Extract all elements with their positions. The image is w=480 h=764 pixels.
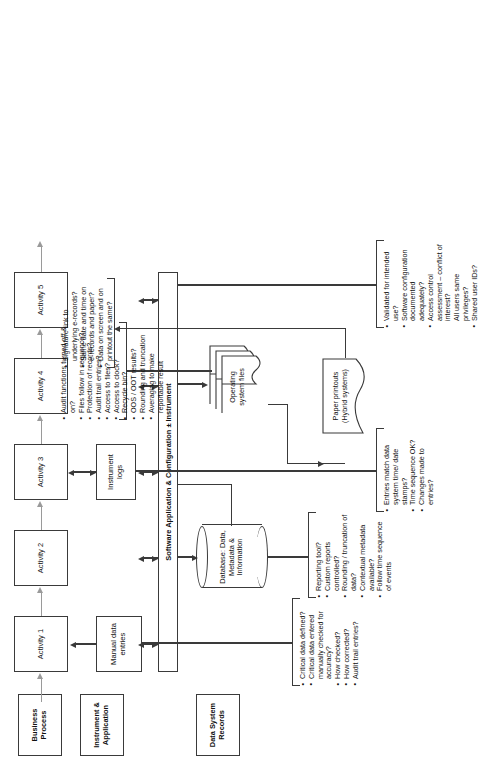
- lane-label-data-system-records: Data System Records: [196, 694, 240, 756]
- activity-label: Activity 1: [37, 629, 46, 659]
- line-paper-callout-h: [345, 328, 346, 358]
- activity-box-3: Activity 3: [14, 444, 68, 500]
- line-manual-callout-stem: [142, 642, 292, 643]
- line-database-return-v: [178, 484, 232, 485]
- flow-arrow-a3-a4: [37, 415, 43, 421]
- manual-data-entries-box: Manual data entries: [96, 616, 142, 672]
- flow-arrow-a4-a5: [37, 329, 43, 335]
- line-software-callout-stem: [178, 284, 376, 285]
- callout-item: Entries match data system time/ date sta…: [383, 430, 409, 512]
- callout-item: Access control assessment – conflict of …: [427, 242, 453, 328]
- lane-label-text: Instrument & Application: [93, 697, 111, 753]
- lane-label-business-process: Business Process: [18, 694, 62, 756]
- operating-system-files-label: Operating system files: [216, 356, 260, 418]
- callout-database: Reporting tool? Custom reports controlle…: [308, 514, 372, 598]
- callout-item: Data on screen and on printout the same?: [97, 280, 115, 368]
- callout-list: Validated for intended use? Software con…: [383, 242, 480, 328]
- callout-item: Changes made to entries?: [418, 430, 436, 512]
- lane-label-text: Business Process: [31, 697, 49, 753]
- line-osfiles-paper-h: [287, 404, 288, 464]
- callout-item: Custom reports controlled?: [324, 514, 342, 598]
- callout-item: Software configuration documented adequa…: [401, 242, 427, 328]
- lane-label-instrument-application: Instrument & Application: [80, 694, 124, 756]
- flow-exit-line: [41, 246, 42, 272]
- flow-exit-arrow: [37, 241, 43, 247]
- database-cylinder: Database: Data, Metadata & Information: [196, 526, 268, 588]
- callout-item: Audit trail entries?: [352, 600, 361, 686]
- line-database-callout-stem: [268, 556, 308, 557]
- paper-printouts-doc: Paper printouts (Hybrid systems): [322, 358, 370, 434]
- paper-printouts-label: Paper printouts (Hybrid systems): [320, 358, 362, 434]
- activity-box-5: Activity 5: [14, 272, 68, 328]
- database-label: Database: Data, Metadata & Information: [196, 526, 268, 588]
- activity-box-1: Activity 1: [14, 616, 68, 672]
- line-database-return-h: [231, 484, 232, 526]
- flow-arrow-a2-a3: [37, 501, 43, 507]
- arrow-software-to-osfiles: [202, 382, 208, 388]
- callout-item: Validated for intended use?: [383, 242, 401, 328]
- activity-label: Activity 4: [37, 371, 46, 401]
- activity-label: Activity 2: [37, 543, 46, 573]
- line-software-to-osfiles: [178, 383, 204, 384]
- callout-list: Reporting tool? Custom reports controlle…: [315, 514, 394, 598]
- manual-data-entries-label: Manual data entries: [110, 619, 127, 669]
- arrow-logs-to-a3-down: [90, 470, 96, 476]
- callout-item: Averaging to make reportable result: [148, 324, 166, 420]
- flow-entry-line: [41, 678, 42, 702]
- arrow-a2-software-up: [138, 556, 144, 562]
- callout-item: Shared user IDs?: [471, 242, 480, 328]
- operating-system-files-stack: Operating system files: [208, 338, 268, 414]
- flow-line-a3-a4: [41, 420, 42, 444]
- line-osfiles-paper-v: [268, 404, 288, 405]
- lane-label-text: Data System Records: [209, 697, 227, 753]
- callout-list: Entries match data system time/ date sta…: [383, 430, 436, 512]
- callout-instrument-logs: Entries match data system time/ date sta…: [376, 430, 422, 512]
- callout-list: Critical data defined? Critical data ent…: [299, 600, 360, 686]
- instrument-logs-box: Instrument logs: [96, 444, 136, 500]
- instrument-logs-label: Instrument logs: [107, 447, 124, 497]
- activity-box-2: Activity 2: [14, 530, 68, 586]
- callout-item: Follow time sequence of events: [376, 514, 394, 598]
- line-logs-callout-stem: [136, 470, 376, 471]
- line-manual-to-a1: [76, 643, 96, 644]
- arrow-a5-software-up: [138, 298, 144, 304]
- arrow-a2-software-down: [152, 556, 158, 562]
- callout-software: Validated for intended use? Software con…: [376, 242, 438, 328]
- callout-manual-entries: Critical data defined? Critical data ent…: [292, 600, 354, 686]
- callout-item: Rounding / truncation of data?: [341, 514, 359, 598]
- activity-label: Activity 3: [37, 457, 46, 487]
- arrow-logs-to-a3-up: [68, 470, 74, 476]
- callout-item: Critical data entered manually checked f…: [308, 600, 334, 686]
- callout-item: Same date and time on e-records and pape…: [80, 280, 98, 368]
- callout-list: Signature link to underlying e-records? …: [62, 280, 115, 368]
- arrow-to-paper-printouts: [318, 461, 324, 467]
- flow-line-a1-a2: [41, 592, 42, 616]
- flow-line-a2-a3: [41, 506, 42, 530]
- flow-arrow-a1-a2: [37, 587, 43, 593]
- flow-line-a4-a5: [41, 334, 42, 358]
- flow-entry-arrow: [37, 673, 43, 679]
- callout-paper-printouts: Signature link to underlying e-records? …: [62, 280, 114, 368]
- arrow-a5-software-down: [152, 298, 158, 304]
- callout-item: Contextual metadata available?: [359, 514, 377, 598]
- callout-item: All users same privileges?: [453, 242, 471, 328]
- arrow-software-to-database: [192, 555, 198, 561]
- callout-item: Signature link to underlying e-records?: [62, 280, 80, 368]
- line-paper-drop-v: [287, 463, 345, 464]
- arrow-manual-to-a1: [70, 642, 76, 648]
- activity-label: Activity 5: [37, 285, 46, 315]
